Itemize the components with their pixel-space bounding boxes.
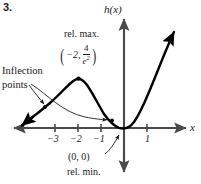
origin-leader: [105, 135, 119, 154]
rel-max-x-value: −2,: [65, 50, 81, 60]
rel-max-y-fraction: 4 e2: [82, 44, 91, 67]
problem-number: 3.: [3, 2, 12, 13]
close-paren: ): [92, 46, 96, 65]
x-axis-label: x: [190, 122, 195, 133]
function-curve: [25, 32, 174, 128]
denominator-exponent: 2: [87, 54, 90, 61]
inflection-label-line2: points: [2, 78, 43, 92]
rel-max-coordinate: ( −2, 4 e2 ): [59, 44, 97, 67]
y-axis-label: h(x): [104, 4, 122, 15]
curve-left-arrow: [22, 117, 33, 126]
x-tick-label-minus3: −3: [47, 134, 59, 144]
fraction-denominator: e2: [83, 55, 90, 66]
inflection-points-label: Inflection points: [2, 64, 43, 92]
x-tick-label-minus1: −1: [93, 134, 105, 144]
x-tick-label-plus1: 1: [145, 134, 150, 144]
inflection-label-line1: Inflection: [2, 64, 43, 78]
rel-max-label: rel. max.: [64, 29, 99, 39]
figure-container: 3. h(x) x −3 −2 −1 1 rel. max. ( −2, 4 e…: [0, 0, 201, 184]
inflection-marker-right: [110, 119, 114, 123]
origin-coordinate-label: (0, 0): [68, 152, 90, 162]
fraction-numerator: 4: [83, 44, 90, 53]
open-paren: (: [60, 46, 64, 65]
inflection-marker-left: [43, 105, 47, 109]
rel-min-label: rel. min.: [67, 167, 101, 177]
rel-max-marker: [76, 77, 80, 81]
x-tick-label-minus2: −2: [70, 134, 82, 144]
